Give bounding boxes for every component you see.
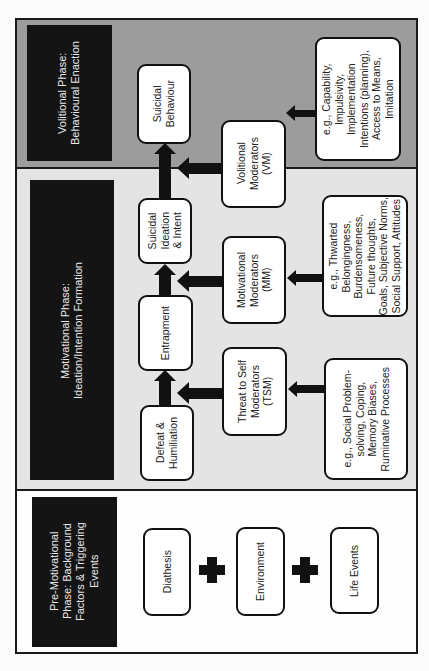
arrow-ideation-to-behaviour (159, 153, 171, 200)
life-events-label: Life Events (348, 545, 361, 597)
motivational-examples-text: e.g., Thwarted Belongingness, Burdensome… (327, 197, 403, 315)
tsm-examples-box: e.g., Social Problem- solving, Coping, M… (324, 358, 408, 480)
arrowhead-up-icon (154, 370, 176, 381)
volitional-examples-box: e.g., Capability, Impulsivity, Implement… (315, 37, 401, 161)
suicidal-ideation-box: Suicidal Ideation & Intent (138, 198, 192, 264)
premotivational-phase-header: Pre-Motivational Phase: Background Facto… (32, 497, 117, 647)
motivational-moderators-label: Motivational Moderators (MM) (235, 252, 273, 308)
life-events-box: Life Events (330, 527, 379, 614)
arrow-tsm-to-main (188, 388, 222, 399)
premotivational-phase-header-text: Pre-Motivational Phase: Background Facto… (48, 522, 101, 621)
arrowhead-left-icon (177, 382, 189, 404)
motivational-phase-header-text: Motivational Phase: Ideation/Intention F… (59, 262, 85, 399)
suicidal-behaviour-box: Suicidal Behaviour (137, 64, 191, 144)
suicidal-ideation-label: Suicidal Ideation & Intent (146, 212, 184, 249)
arrowhead-left-icon (286, 105, 295, 121)
volitional-moderators-label: Volitional Moderators (VM) (235, 137, 273, 190)
arrowhead-left-icon (177, 157, 189, 179)
environment-label: Environment (254, 542, 267, 601)
arrow-defeat-to-entrapment (159, 381, 171, 407)
volitional-examples-text: e.g., Capability, Impulsivity, Implement… (320, 50, 396, 148)
arrowhead-left-icon (177, 270, 189, 292)
defeat-humiliation-box: Defeat & Humiliation (140, 405, 194, 481)
arrowhead-left-icon (288, 381, 297, 397)
environment-box: Environment (236, 527, 285, 616)
plus-icon (300, 557, 310, 583)
arrowhead-up-icon (154, 143, 176, 154)
diathesis-label: Diathesis (161, 550, 174, 593)
arrow-mm-to-main (188, 276, 222, 287)
tsm-label: Threat to Self Moderators (TSM) (236, 360, 274, 423)
arrowhead-up-icon (154, 264, 176, 275)
arrow-entrapment-to-ideation (159, 275, 171, 297)
motivational-phase-header: Motivational Phase: Ideation/Intention F… (30, 180, 114, 480)
arrow-vm-to-main (188, 163, 222, 174)
suicidal-behaviour-label: Suicidal Behaviour (151, 80, 176, 127)
volitional-moderators-box: Volitional Moderators (VM) (221, 120, 286, 208)
motivational-examples-box: e.g., Thwarted Belongingness, Burdensome… (322, 195, 408, 317)
entrapment-box: Entrapment (138, 295, 193, 371)
tsm-box: Threat to Self Moderators (TSM) (222, 347, 287, 436)
motivational-moderators-box: Motivational Moderators (MM) (222, 236, 286, 324)
defeat-humiliation-label: Defeat & Humiliation (154, 417, 179, 469)
volitional-phase-header: Volitional Phase: Behavioural Enaction (27, 25, 112, 161)
tsm-examples-text: e.g., Social Problem- solving, Coping, M… (341, 367, 391, 471)
arrowhead-left-icon (287, 270, 296, 286)
entrapment-label: Entrapment (159, 306, 172, 360)
arrow-tsm-examples (295, 385, 324, 393)
plus-icon (207, 557, 217, 583)
arrow-vm-examples (293, 110, 316, 117)
arrow-mm-examples (294, 274, 322, 282)
diathesis-box: Diathesis (143, 528, 191, 616)
volitional-phase-header-text: Volitional Phase: Behavioural Enaction (56, 41, 82, 145)
